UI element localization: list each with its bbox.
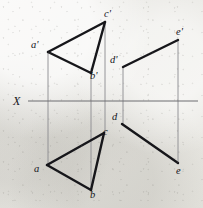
- point-label-a: a: [34, 164, 39, 175]
- edge-d-e: [122, 124, 178, 163]
- edge-dp-ep: [123, 40, 178, 67]
- point-label-b-prime: b': [90, 71, 98, 82]
- point-label-a-prime: a': [31, 40, 39, 51]
- axis-label-x: X: [13, 95, 20, 107]
- projection-drawing: [0, 0, 203, 208]
- point-label-d-prime: d': [110, 55, 118, 66]
- projector-lines-group: [48, 22, 178, 190]
- point-label-c-prime: c': [104, 9, 111, 20]
- edge-ap-cp: [48, 22, 105, 52]
- point-label-b: b: [90, 190, 95, 201]
- point-label-c: c: [103, 127, 108, 138]
- edge-c-b: [91, 133, 104, 190]
- edge-b-a: [47, 165, 91, 190]
- edges-group: [47, 22, 178, 190]
- edge-cp-bp: [91, 22, 105, 73]
- edge-bp-ap: [48, 52, 91, 73]
- point-label-e-prime: e': [176, 27, 183, 38]
- drawing-canvas: a'b'c'abcd'e'de X: [0, 0, 203, 208]
- point-label-e: e: [176, 166, 181, 177]
- point-label-d: d: [112, 112, 117, 123]
- edge-a-c: [47, 133, 104, 165]
